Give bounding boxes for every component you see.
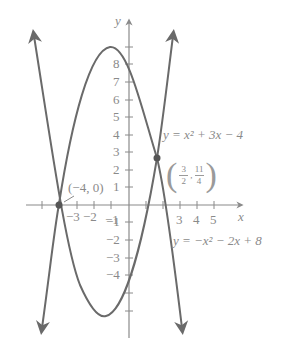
equation-label-upward: y = x² + 3x − 4 [163,128,243,141]
x-tick-label: 4 [193,213,200,226]
fraction-numerator: 3 [182,165,187,174]
intersection-point-b [154,155,161,162]
y-tick-label: 6 [113,93,120,106]
y-tick-label: 2 [113,163,120,176]
equation-label-downward: y = −x² − 2x + 8 [173,234,262,247]
x-tick-label: 5 [210,213,217,226]
curve-downward-parabola [42,47,182,328]
fraction-y: 11 4 [195,165,204,186]
fraction-denominator: 4 [197,177,202,186]
graph-canvas [0,0,288,352]
x-tick-label: 3 [176,213,183,226]
point-label-b: ( 3 2 , 11 4 ) [166,158,217,192]
y-tick-label: 3 [113,145,120,158]
y-tick-label: −3 [106,251,120,264]
fraction-numerator: 11 [195,165,204,174]
x-tick-label: −3 [66,210,80,223]
intersection-point-a [56,202,63,209]
paren-open: ( [166,158,177,192]
y-tick-label: 4 [113,128,120,141]
y-tick-label: 1 [113,180,120,193]
y-axis-label: y [115,14,121,27]
x-axis-label: x [238,210,244,223]
point-label-a: (−4, 0) [68,181,104,194]
pointer-arrow [64,196,74,202]
y-tick-label: 7 [113,75,120,88]
curve-upward-parabola [34,36,173,316]
y-tick-label: −2 [106,233,120,246]
y-tick-label: 5 [113,110,120,123]
y-tick-label: −1 [106,215,120,228]
fraction-denominator: 2 [182,177,187,186]
paren-close: ) [206,158,217,192]
x-tick-label: −2 [83,210,97,223]
y-tick-label: 8 [113,57,120,70]
y-tick-label: −4 [106,268,120,281]
fraction-x: 3 2 [179,165,188,186]
